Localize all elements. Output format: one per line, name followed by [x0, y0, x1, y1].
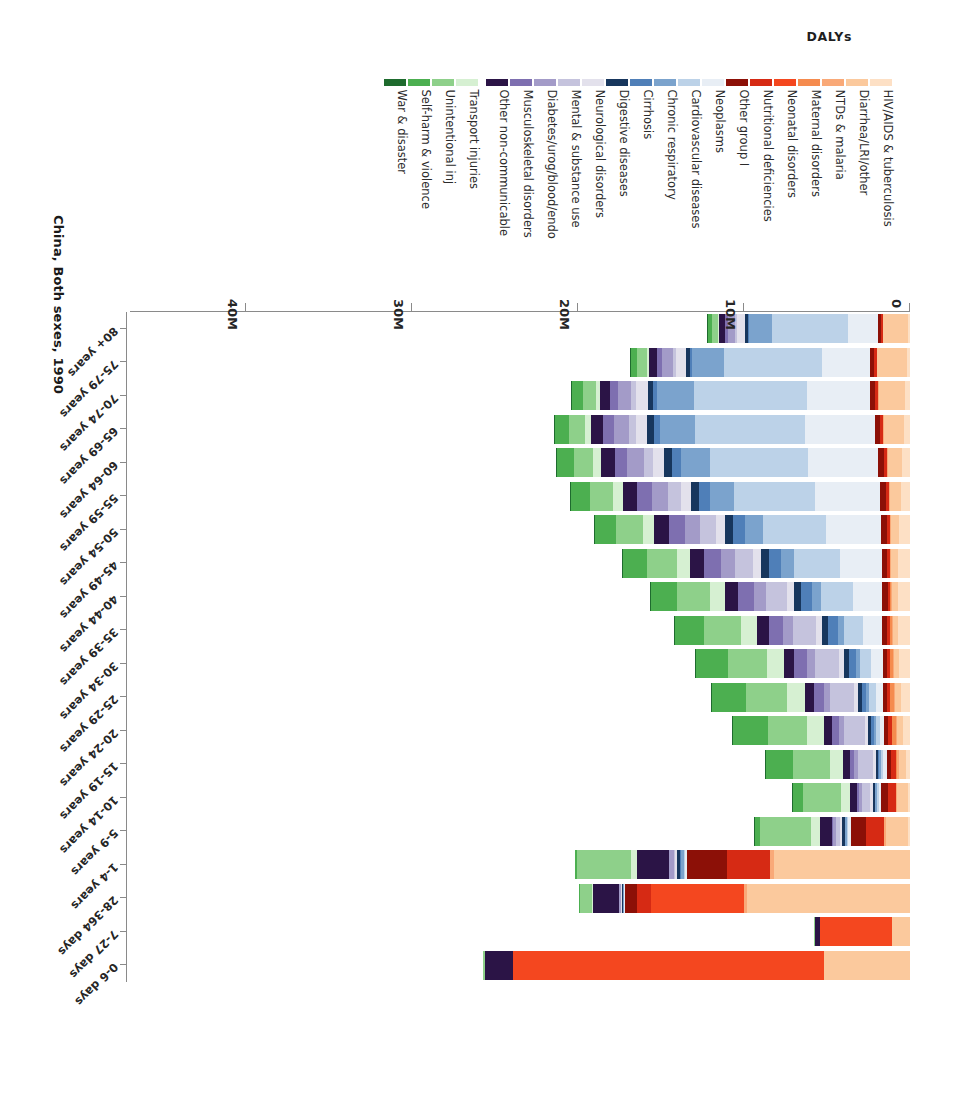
bar-segment — [897, 783, 907, 812]
bar-segment — [623, 482, 637, 511]
bar-stack — [630, 348, 910, 377]
bar-segment — [841, 783, 850, 812]
bar-segment — [815, 649, 839, 678]
bar-stack — [696, 649, 910, 678]
x-axis-tick-label: 40M — [225, 299, 240, 330]
bar-segment — [677, 850, 680, 879]
bar-segment — [893, 649, 894, 678]
y-axis-tick — [120, 529, 127, 530]
bar-stack — [623, 549, 910, 578]
bar-segment — [905, 381, 910, 410]
bar-segment — [710, 482, 734, 511]
bar-segment — [878, 314, 881, 343]
bar-segment — [623, 549, 647, 578]
bar-segment — [675, 616, 704, 645]
bar-segment — [801, 582, 812, 611]
bar-segment — [807, 716, 824, 745]
bar-segment — [677, 549, 690, 578]
bar-segment — [595, 515, 617, 544]
legend-swatch — [384, 79, 406, 86]
bar-segment — [870, 348, 874, 377]
bar-stack — [675, 616, 910, 645]
bar-segment — [903, 716, 910, 745]
bar-segment — [557, 448, 573, 477]
bar-segment — [871, 649, 882, 678]
bar-stack — [575, 850, 910, 879]
bar-segment — [887, 515, 890, 544]
bar-segment — [734, 482, 815, 511]
bar-segment — [907, 348, 910, 377]
bar-segment — [572, 381, 582, 410]
bar-segment — [822, 348, 870, 377]
bar-segment — [820, 917, 891, 946]
bar-segment — [593, 448, 601, 477]
bar-segment — [745, 515, 763, 544]
bar-segment — [637, 348, 646, 377]
bar-segment — [859, 783, 862, 812]
bar-segment — [690, 348, 692, 377]
legend-label: Transport injuries — [467, 90, 479, 190]
bar-segment — [733, 716, 768, 745]
bar-stack — [557, 448, 910, 477]
bar-segment — [879, 750, 881, 779]
bar-segment — [820, 817, 832, 846]
bar-segment — [901, 683, 910, 712]
bar-segment — [746, 683, 787, 712]
bar-segment — [878, 750, 879, 779]
legend-swatch — [606, 79, 628, 86]
bar-segment — [881, 750, 883, 779]
bar-segment — [816, 616, 822, 645]
bar-segment — [747, 884, 910, 913]
chart-title-container: China, Both sexes, 1990 — [36, 215, 66, 415]
bar-segment — [793, 616, 816, 645]
bar-segment — [870, 381, 875, 410]
bar-segment — [894, 649, 899, 678]
bar-segment — [755, 817, 760, 846]
bar-segment — [874, 716, 876, 745]
bar-segment — [622, 884, 623, 913]
bar-segment — [896, 716, 897, 745]
bar-segment — [828, 616, 837, 645]
bar-segment — [577, 850, 632, 879]
bar-segment — [631, 381, 636, 410]
bar-segment — [574, 448, 594, 477]
bar-segment — [769, 616, 784, 645]
bar-segment — [691, 482, 699, 511]
bar-segment — [890, 482, 901, 511]
legend-label: War & disaster — [395, 90, 407, 175]
bar-segment — [593, 884, 620, 913]
bar-segment — [686, 348, 690, 377]
bar-segment — [767, 649, 784, 678]
y-axis-tick — [120, 763, 127, 764]
bar-segment — [687, 850, 727, 879]
bar-segment — [728, 649, 767, 678]
bar-segment — [821, 582, 853, 611]
bar-segment — [580, 884, 592, 913]
bar-segment — [891, 750, 896, 779]
bar-segment — [832, 716, 839, 745]
bar-segment — [710, 582, 725, 611]
bar-segment — [668, 482, 680, 511]
x-axis-tick-label: 0 — [889, 299, 904, 308]
bar-segment — [881, 783, 887, 812]
bar-segment — [891, 515, 900, 544]
bar-segment — [858, 683, 862, 712]
bar-segment — [888, 582, 891, 611]
bar-segment — [850, 750, 855, 779]
bar-segment — [805, 683, 814, 712]
bar-segment — [647, 415, 654, 444]
bar-segment — [884, 817, 886, 846]
bar-segment — [908, 314, 910, 343]
legend-swatch — [582, 79, 604, 86]
bar-segment — [875, 783, 876, 812]
bar-segment — [664, 448, 672, 477]
bar-segment — [887, 683, 890, 712]
bar-segment — [766, 582, 787, 611]
bar-segment — [768, 716, 808, 745]
bar-segment — [883, 582, 888, 611]
legend-label: Other group I — [737, 90, 749, 167]
legend-label: Neonatal disorders — [785, 90, 797, 199]
bar-segment — [884, 448, 887, 477]
bar-segment — [853, 582, 883, 611]
bar-segment — [890, 649, 893, 678]
